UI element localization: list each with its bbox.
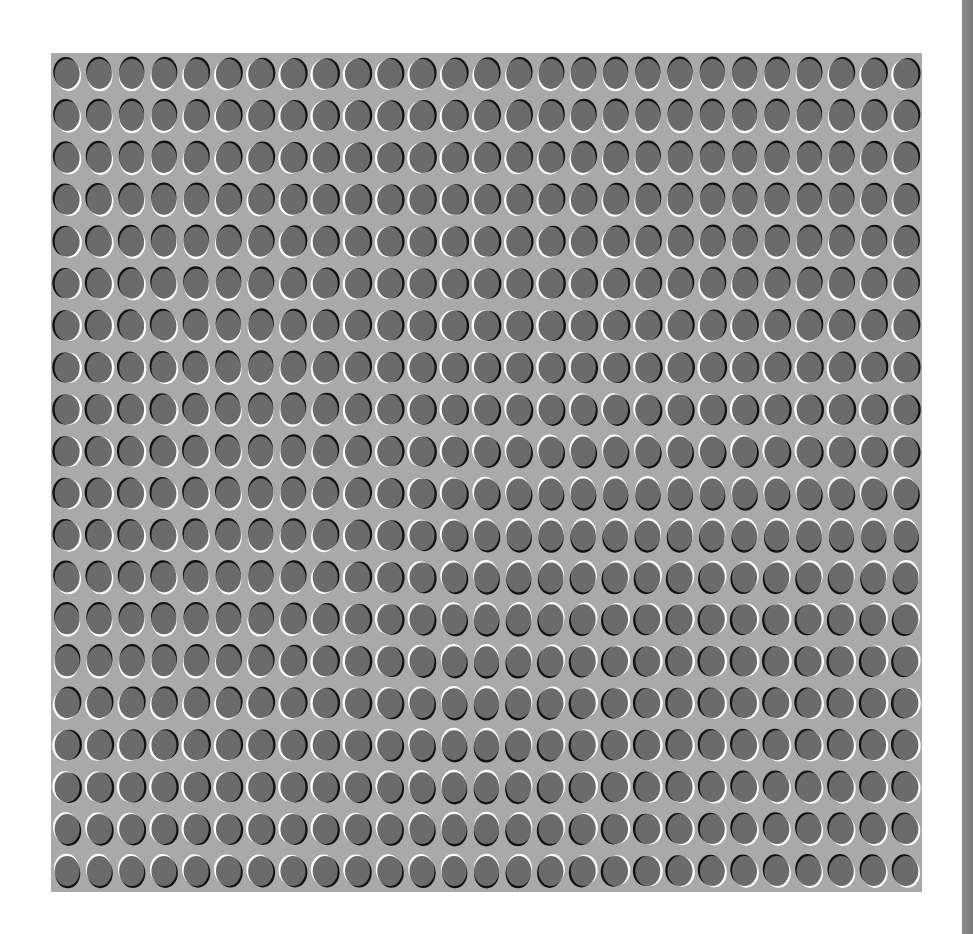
ellipse-cell <box>311 226 340 258</box>
ellipse-cell <box>52 478 82 509</box>
ellipse-cell <box>505 57 533 91</box>
ellipse-cell <box>635 99 661 134</box>
ellipse-cell <box>119 644 145 679</box>
ellipse-cell <box>730 771 759 804</box>
ellipse-cell <box>538 476 565 511</box>
ellipse-cell <box>440 477 469 509</box>
ellipse-cell <box>536 226 565 258</box>
ellipse-cell <box>698 435 726 469</box>
ellipse-cell <box>859 309 888 342</box>
ellipse-cell <box>860 99 888 133</box>
ellipse-cell <box>149 729 178 761</box>
ellipse-cell <box>505 435 533 468</box>
ellipse-cell <box>343 771 372 803</box>
ellipse-cell <box>150 686 178 720</box>
ellipse-cell <box>118 560 146 594</box>
ellipse-cell <box>569 183 597 216</box>
ellipse-cell <box>440 100 469 132</box>
ellipse-cell <box>828 267 855 301</box>
ellipse-cell <box>343 435 372 468</box>
ellipse-cell <box>891 771 920 803</box>
ellipse-cell <box>891 100 920 133</box>
ellipse-cell <box>407 353 437 383</box>
ellipse-cell <box>407 142 437 173</box>
ellipse-cell <box>666 267 694 300</box>
ellipse-cell <box>214 772 244 802</box>
ellipse-cell <box>794 688 824 719</box>
ellipse-cell <box>343 729 373 760</box>
ellipse-cell <box>214 854 243 887</box>
ellipse-cell <box>375 771 404 804</box>
ellipse-cell <box>441 770 467 805</box>
ellipse-cell <box>310 730 340 760</box>
ellipse-cell <box>408 603 437 636</box>
ellipse-cell <box>248 476 273 511</box>
ellipse-cell <box>472 184 502 215</box>
ellipse-cell <box>699 182 725 217</box>
ellipse-cell <box>569 225 598 258</box>
ellipse-cell <box>763 854 791 888</box>
ellipse-cell <box>731 476 757 511</box>
ellipse-cell <box>52 771 82 803</box>
ellipse-cell <box>796 57 823 91</box>
ellipse-cell <box>54 854 80 889</box>
ellipse-cell <box>407 478 437 509</box>
ellipse-cell <box>506 602 532 637</box>
ellipse-cell <box>182 435 210 469</box>
ellipse-cell <box>730 646 760 676</box>
ellipse-cell <box>504 393 533 426</box>
ellipse-cell <box>117 477 146 509</box>
ellipse-cell <box>635 141 661 176</box>
ellipse-cell <box>117 394 146 426</box>
ellipse-cell <box>375 562 405 592</box>
ellipse-cell <box>505 812 532 846</box>
ellipse-cell <box>278 855 307 888</box>
ellipse-cell <box>794 603 823 635</box>
ellipse-cell <box>440 436 469 468</box>
ellipse-cell <box>569 729 598 761</box>
ellipse-cell <box>118 686 146 720</box>
ellipse-cell <box>408 854 435 888</box>
ellipse-cell <box>119 602 145 637</box>
ellipse-cell <box>279 602 307 636</box>
ellipse-cell <box>86 854 113 888</box>
ellipse-cell <box>633 730 663 761</box>
ellipse-cell <box>633 856 663 886</box>
ellipse-cell <box>827 309 855 342</box>
ellipse-cell <box>602 434 630 468</box>
ellipse-cell <box>407 561 436 593</box>
ellipse-cell <box>504 352 534 383</box>
ellipse-cell <box>85 519 114 552</box>
ellipse-cell <box>538 560 564 595</box>
ellipse-cell <box>699 476 725 511</box>
ellipse-cell <box>891 813 920 846</box>
ellipse-cell <box>375 58 404 90</box>
ellipse-cell <box>215 434 242 468</box>
ellipse-cell <box>601 814 631 845</box>
ellipse-cell <box>472 310 502 340</box>
ellipse-cell <box>311 561 340 594</box>
ellipse-cell <box>278 142 307 174</box>
ellipse-cell <box>183 266 209 301</box>
ellipse-cell <box>472 226 502 257</box>
ellipse-cell <box>310 184 340 216</box>
ellipse-cell <box>570 99 597 133</box>
ellipse-cell <box>634 561 662 595</box>
ellipse-cell <box>827 352 856 384</box>
ellipse-cell <box>860 225 887 259</box>
ellipse-cell <box>280 518 307 552</box>
ellipse-cell <box>85 394 115 425</box>
ellipse-cell <box>762 603 791 635</box>
ellipse-cell <box>633 646 663 677</box>
ellipse-cell <box>117 772 147 803</box>
ellipse-cell <box>376 854 404 888</box>
ellipse-cell <box>343 100 373 131</box>
ellipse-cell <box>504 226 534 257</box>
ellipse-cell <box>343 142 373 173</box>
ellipse-cell <box>182 351 210 385</box>
ellipse-cell <box>795 267 822 301</box>
ellipse-cell <box>537 812 565 845</box>
ellipse-cell <box>893 518 919 553</box>
ellipse-cell <box>375 352 405 383</box>
ellipse-cell <box>892 183 920 217</box>
